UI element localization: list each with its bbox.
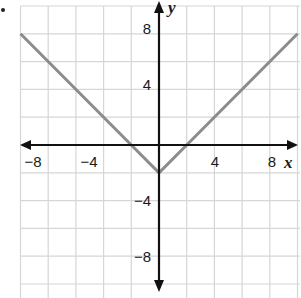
y-tick-label-4: 4 <box>143 76 151 93</box>
x-tick-label-8: 8 <box>268 153 276 170</box>
y-axis-label: y <box>166 0 176 17</box>
y-axis-up-arrow-icon <box>154 1 164 13</box>
x-tick-label-neg8: −8 <box>24 153 41 170</box>
x-axis-left-arrow-icon <box>20 140 31 150</box>
grid-lines <box>21 6 301 298</box>
y-tick-label-neg8: −8 <box>134 248 151 265</box>
x-axis-right-arrow-icon <box>287 140 298 150</box>
y-axis-down-arrow-icon <box>154 280 164 292</box>
coordinate-plane: −8 −4 4 8 x 8 4 −4 −8 y <box>0 0 300 298</box>
x-axis-label: x <box>283 153 293 172</box>
x-tick-label-neg4: −4 <box>80 153 97 170</box>
y-tick-label-neg4: −4 <box>134 192 151 209</box>
x-tick-label-4: 4 <box>211 153 219 170</box>
y-tick-label-8: 8 <box>143 20 151 37</box>
axes <box>20 1 298 292</box>
